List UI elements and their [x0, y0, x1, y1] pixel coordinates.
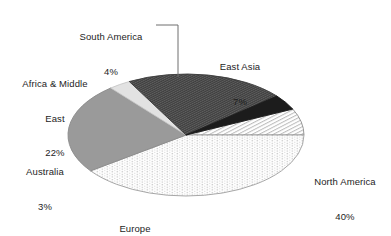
slice-label-africa-middle-east-name-line1: Africa & Middle [2, 78, 108, 90]
slice-label-europe: Europe 24% [96, 200, 174, 236]
slice-label-north-america: North America 40% [300, 153, 390, 236]
slice-label-east-asia-percent: 7% [196, 96, 284, 108]
slice-label-north-america-name: North America [300, 176, 390, 188]
pie-chart-page: South America 4% Africa & Middle East 22… [0, 0, 391, 236]
slice-label-australia-name: Australia [2, 166, 88, 178]
slice-label-north-america-percent: 40% [300, 211, 390, 223]
slice-label-east-asia-name: East Asia [196, 61, 284, 73]
slice-label-europe-name: Europe [96, 223, 174, 235]
slice-label-south-america-name: South America [56, 31, 166, 43]
slice-label-australia-percent: 3% [2, 201, 88, 213]
slice-label-australia: Australia 3% [2, 143, 88, 235]
slice-label-africa-middle-east-name-line2: East [2, 113, 108, 125]
slice-label-east-asia: East Asia 7% [196, 38, 284, 130]
